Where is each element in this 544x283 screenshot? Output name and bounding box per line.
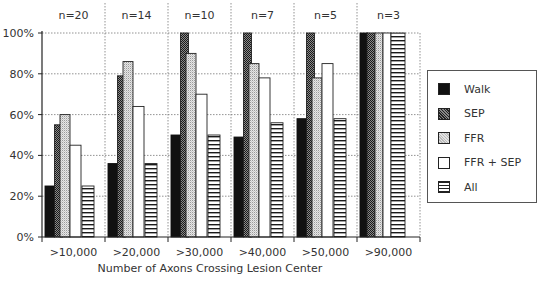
bar-ffr-sep xyxy=(70,145,81,237)
group-n-annotation: n=7 xyxy=(251,9,274,22)
x-tick-label: >10,000 xyxy=(50,246,98,259)
legend-item: FFR xyxy=(438,130,484,146)
legend-item: FFR + SEP xyxy=(438,155,521,171)
bar-sep xyxy=(367,33,375,237)
y-tick-label: 20% xyxy=(10,190,34,203)
group-n-annotation: n=14 xyxy=(121,9,151,22)
legend-swatch-icon xyxy=(438,108,450,120)
bar-walk xyxy=(45,186,55,237)
bar-ffr-sep xyxy=(383,33,391,237)
legend-label: Walk xyxy=(464,83,490,96)
legend-label: FFR + SEP xyxy=(464,156,521,169)
bar-ffr xyxy=(60,115,70,237)
bar-all xyxy=(208,135,220,237)
x-tick-label: >20,000 xyxy=(113,246,161,259)
x-axis-title: Number of Axons Crossing Lesion Center xyxy=(0,262,420,275)
bar-walk xyxy=(171,135,181,237)
legend-swatch-icon xyxy=(438,132,450,144)
bar-all xyxy=(334,119,346,237)
group-n-annotation: n=5 xyxy=(314,9,337,22)
x-tick-label: >50,000 xyxy=(302,246,350,259)
bars xyxy=(45,33,405,237)
group-n-annotation: n=20 xyxy=(58,9,88,22)
legend-item: Walk xyxy=(438,81,490,97)
legend-label: SEP xyxy=(464,107,485,120)
bar-ffr-sep xyxy=(322,64,333,237)
group-n-annotation: n=3 xyxy=(377,9,400,22)
bar-all xyxy=(82,186,94,237)
x-tick-label: >30,000 xyxy=(176,246,224,259)
bar-ffr-sep xyxy=(133,106,144,237)
y-tick-label: 80% xyxy=(10,68,34,81)
bar-ffr xyxy=(312,78,322,237)
legend-label: All xyxy=(464,181,478,194)
bar-ffr xyxy=(123,62,133,237)
bar-all xyxy=(391,33,405,237)
y-tick-label: 60% xyxy=(10,109,34,122)
bar-ffr-sep xyxy=(196,94,207,237)
legend-item: All xyxy=(438,179,478,195)
legend-swatch-icon xyxy=(438,157,450,169)
y-tick-label: 100% xyxy=(3,27,34,40)
group-n-annotation: n=10 xyxy=(184,9,214,22)
bar-walk xyxy=(234,137,244,237)
bar-ffr xyxy=(249,64,259,237)
bar-all xyxy=(271,123,283,237)
bar-walk xyxy=(297,119,307,237)
legend: WalkSEPFFRFFR + SEPAll xyxy=(427,70,537,203)
legend-item: SEP xyxy=(438,106,485,122)
legend-label: FFR xyxy=(464,132,484,145)
y-tick-label: 40% xyxy=(10,149,34,162)
bar-ffr xyxy=(186,53,196,237)
x-tick-label: >40,000 xyxy=(239,246,287,259)
legend-swatch-icon xyxy=(438,181,450,193)
bar-ffr xyxy=(375,33,383,237)
legend-swatch-icon xyxy=(438,83,450,95)
bar-walk xyxy=(108,164,118,237)
bar-all xyxy=(145,164,157,237)
y-tick-label: 0% xyxy=(17,231,34,244)
bar-ffr-sep xyxy=(259,78,270,237)
x-tick-label: >90,000 xyxy=(365,246,413,259)
